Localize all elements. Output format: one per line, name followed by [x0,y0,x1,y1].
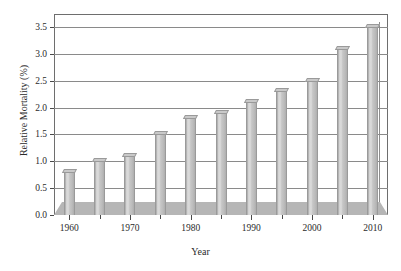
y-axis-tick-label: 0.0 [35,210,47,220]
bar-body [337,49,348,216]
x-axis-tick-minor [100,215,101,219]
x-axis-tick-label: 1980 [181,223,200,233]
y-axis-tick [50,215,54,216]
y-axis-tick-label: 3.0 [35,49,47,59]
y-axis-tick-label: 1.5 [35,129,47,139]
bar-top-cap [92,158,107,162]
x-axis-tick-label: 2000 [303,223,322,233]
x-axis-tick [373,215,374,220]
x-axis-tick-minor [282,215,283,219]
y-axis-tick-label: 2.0 [35,103,47,113]
plot-area: 0.00.51.01.52.02.53.03.5 196019701980199… [54,14,388,215]
bar-top-cap [213,110,228,114]
bar-top-cap [335,46,350,50]
x-axis-tick-minor [160,215,161,219]
y-axis-tick-label: 3.5 [35,22,47,32]
bar [185,118,196,215]
bar [367,27,378,215]
bar-body [307,81,318,215]
bar-body [367,27,378,215]
x-axis-tick [312,215,313,220]
bar-body [155,134,166,215]
x-axis-tick [130,215,131,220]
x-axis-tick-minor [342,215,343,219]
bar-body [276,91,287,215]
x-axis-title: Year [0,246,401,257]
x-axis-tick-minor [221,215,222,219]
y-axis-tick-label: 0.5 [35,183,47,193]
x-axis-tick [191,215,192,220]
bar [307,81,318,215]
bar-top-cap [365,24,380,28]
bar [64,172,75,215]
bar [337,49,348,216]
bar-body [64,172,75,215]
bar [246,102,257,215]
bar [124,156,135,215]
bar-body [124,156,135,215]
x-axis-tick [251,215,252,220]
x-axis-tick-label: 2010 [363,223,382,233]
bar-top-cap [122,153,137,157]
x-axis-tick [69,215,70,220]
bar-body [185,118,196,215]
bar-top-cap [183,115,198,119]
y-axis-tick-label: 2.5 [35,76,47,86]
x-axis-tick-label: 1970 [120,223,139,233]
bar-chart-figure: Relative Mortality (%) 0.00.51.01.52.02.… [0,0,401,271]
y-axis-tick-label: 1.0 [35,156,47,166]
bar-top-cap [274,88,289,92]
x-axis-tick-label: 1960 [60,223,79,233]
bar-body [246,102,257,215]
bar-top-cap [62,169,77,173]
bar-top-cap [153,131,168,135]
bar [94,161,105,215]
bar [216,113,227,215]
bar-series [54,14,388,215]
x-axis-tick-label: 1990 [242,223,261,233]
bar-top-cap [305,78,320,82]
bar [155,134,166,215]
bar-body [216,113,227,215]
bar-top-cap [244,99,259,103]
y-axis-title: Relative Mortality (%) [18,26,29,196]
bar-body [94,161,105,215]
bar [276,91,287,215]
